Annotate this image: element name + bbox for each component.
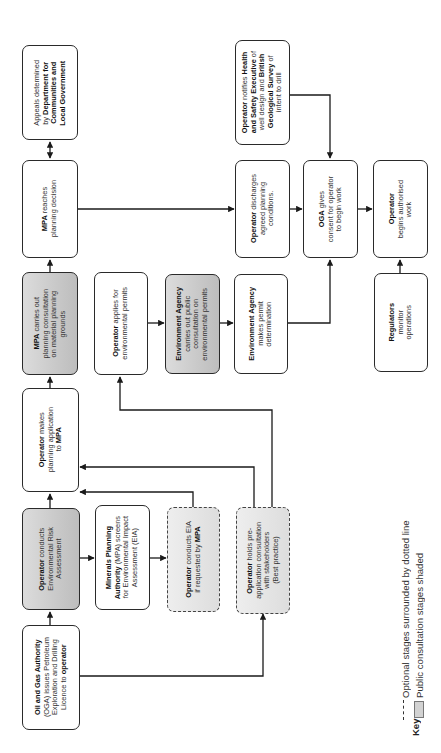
node-env-permits-apply: Operator applies for environmental permi… [94, 272, 148, 375]
node-label: OGA gives consent for operator to begin … [318, 176, 344, 242]
node-label: MPA carries out planning consultation on… [33, 289, 67, 358]
node-label: Operator conducts EIA if requested by MP… [185, 521, 202, 598]
node-oga-consent: OGA gives consent for operator to begin … [303, 160, 358, 258]
flowchart: Appeals determined by Department for Com… [0, 0, 441, 753]
node-begin-work: Operator begins authorised work [373, 160, 428, 258]
node-label: MPA reaches planning decision [41, 180, 58, 237]
node-discharge-conditions: Operator discharges agreed planning cond… [235, 160, 290, 258]
node-label: Operator notifies Health and Safety Exec… [241, 51, 284, 133]
node-mpa-consultation: MPA carries out planning consultation on… [22, 272, 78, 375]
node-label: Operator begins authorised work [388, 180, 414, 238]
node-env-risk-assessment: Operator conducts Environmental Risk Ass… [22, 508, 80, 610]
node-notify-hse: Operator notifies Health and Safety Exec… [235, 40, 290, 145]
node-conducts-eia: Operator conducts EIA if requested by MP… [167, 507, 220, 612]
node-label: Environment Agency carries out public co… [175, 287, 209, 361]
node-ea-consultation: Environment Agency carries out public co… [165, 274, 220, 374]
node-oga-licence: Oil and Gas Authority (OGA) issues Petro… [22, 625, 80, 730]
node-label: Operator conducts Environmental Risk Ass… [38, 527, 64, 591]
node-pre-app-consultation: Operator holds pre- application consulta… [236, 507, 290, 614]
node-label: Operator makes planning application to M… [38, 407, 64, 472]
node-ea-determination: Environment Agency makes permit determin… [234, 274, 288, 374]
shaded-box-icon [414, 701, 424, 718]
node-label: Environment Agency makes permit determin… [248, 287, 274, 361]
key-item-optional: Optional stages surrounded by dotted lin… [400, 478, 411, 698]
node-appeals: Appeals determined by Department for Com… [22, 45, 78, 140]
node-planning-application: Operator makes planning application to M… [22, 388, 79, 492]
node-label: Minerals Planning Authority (MPA) screen… [105, 516, 139, 599]
node-label: Operator holds pre- application consulta… [246, 522, 280, 599]
node-mpa-decision: MPA reaches planning decision [22, 160, 78, 258]
node-label: Oil and Gas Authority (OGA) issues Petro… [34, 637, 68, 717]
node-label: Regulators monitor operations [388, 303, 414, 342]
node-label: Operator applies for environmental permi… [112, 287, 129, 360]
node-label: Operator discharges agreed planning cond… [250, 174, 276, 243]
node-label: Appeals determined by Department for Com… [33, 60, 67, 126]
key-item-public-consultation: Public consultation stages shaded [414, 540, 425, 698]
node-regulators: Regulators monitor operations [374, 273, 428, 372]
node-mpa-screens: Minerals Planning Authority (MPA) screen… [95, 505, 150, 610]
